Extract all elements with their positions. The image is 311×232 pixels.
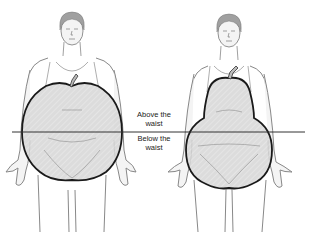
label-below-waist: Below the waist — [124, 135, 184, 152]
pear-figure-neck — [220, 46, 238, 60]
pear-shape — [186, 78, 272, 189]
label-above-waist: Above the waist — [124, 111, 184, 128]
apple-figure-legs — [38, 175, 106, 232]
pear-figure — [168, 14, 292, 232]
label-below-line2: waist — [124, 144, 184, 153]
apple-figure — [6, 12, 136, 232]
label-above-line2: waist — [124, 120, 184, 129]
